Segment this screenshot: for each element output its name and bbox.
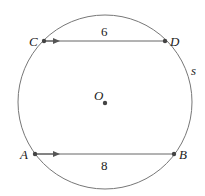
- circle-chord-diagram: C D A B O s 6 8: [0, 0, 205, 196]
- point-c: [42, 39, 46, 43]
- chord-cd-length: 6: [101, 24, 108, 39]
- label-arc-s: s: [191, 63, 196, 78]
- point-b: [172, 152, 176, 156]
- point-d: [163, 39, 167, 43]
- label-d: D: [169, 34, 180, 49]
- label-b: B: [179, 147, 187, 162]
- label-c: C: [29, 34, 38, 49]
- label-a: A: [19, 147, 28, 162]
- chord-ab-length: 8: [101, 158, 108, 173]
- label-o: O: [94, 88, 104, 103]
- point-a: [33, 152, 37, 156]
- point-o: [103, 101, 107, 105]
